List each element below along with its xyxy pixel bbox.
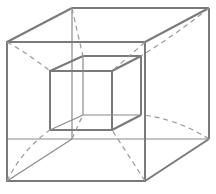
outer-cube-back-face — [7, 8, 209, 139]
inner-cube — [50, 56, 141, 130]
outer-cube — [7, 8, 209, 181]
tesseract-svg — [0, 0, 216, 194]
tesseract-diagram — [0, 0, 216, 194]
dashed-connectors — [7, 8, 209, 181]
